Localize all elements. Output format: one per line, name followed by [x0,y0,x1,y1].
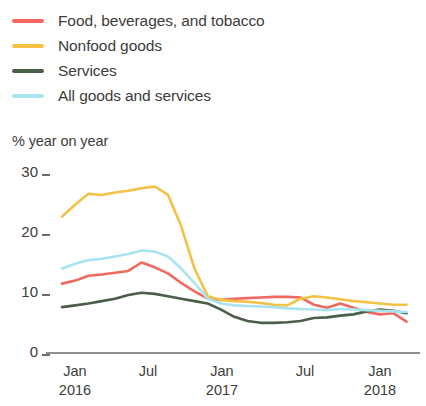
x-tick-label-jan-2017: Jan 2017 [187,362,257,400]
y-tick-dash-0 [42,354,50,356]
x-tick-month: Jan [210,363,233,379]
y-tick-label-20: 20 [8,223,38,240]
x-tick-label-jan-2016: Jan 2016 [40,362,110,400]
x-tick-label-jul-2017: Jul [270,362,340,381]
chart-lines-svg [0,0,426,406]
x-tick-month: Jul [296,363,315,379]
y-tick-dash-20 [42,234,50,236]
x-tick-month: Jul [139,363,158,379]
series-line [62,250,407,312]
x-tick-label-jan-2018: Jan 2018 [345,362,415,400]
x-tick-year: 2017 [187,381,257,400]
y-tick-label-0: 0 [8,343,38,360]
x-tick-month: Jan [63,363,86,379]
y-tick-label-10: 10 [8,283,38,300]
x-tick-label-jul-2016: Jul [113,362,183,381]
series-line [62,186,407,305]
plot-area: 30 20 10 0 Jan 2016 Jul Jan 2017 Jul Jan… [0,0,426,406]
y-tick-dash-10 [42,294,50,296]
x-tick-year: 2016 [40,381,110,400]
y-tick-dash-30 [42,174,50,176]
chart-figure: Food, beverages, and tobacco Nonfood goo… [0,0,426,406]
x-tick-year: 2018 [345,381,415,400]
x-tick-month: Jan [368,363,391,379]
y-tick-label-30: 30 [8,163,38,180]
